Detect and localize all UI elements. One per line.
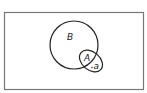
element-a-label: a — [94, 61, 100, 71]
set-b-label: B — [67, 32, 73, 42]
universal-set-frame — [5, 13, 144, 90]
set-b-circle — [50, 21, 98, 69]
venn-diagram: B A a — [0, 0, 147, 93]
element-a-point — [91, 67, 92, 68]
set-a-ellipse — [75, 46, 106, 77]
set-a-label: A — [83, 53, 90, 63]
